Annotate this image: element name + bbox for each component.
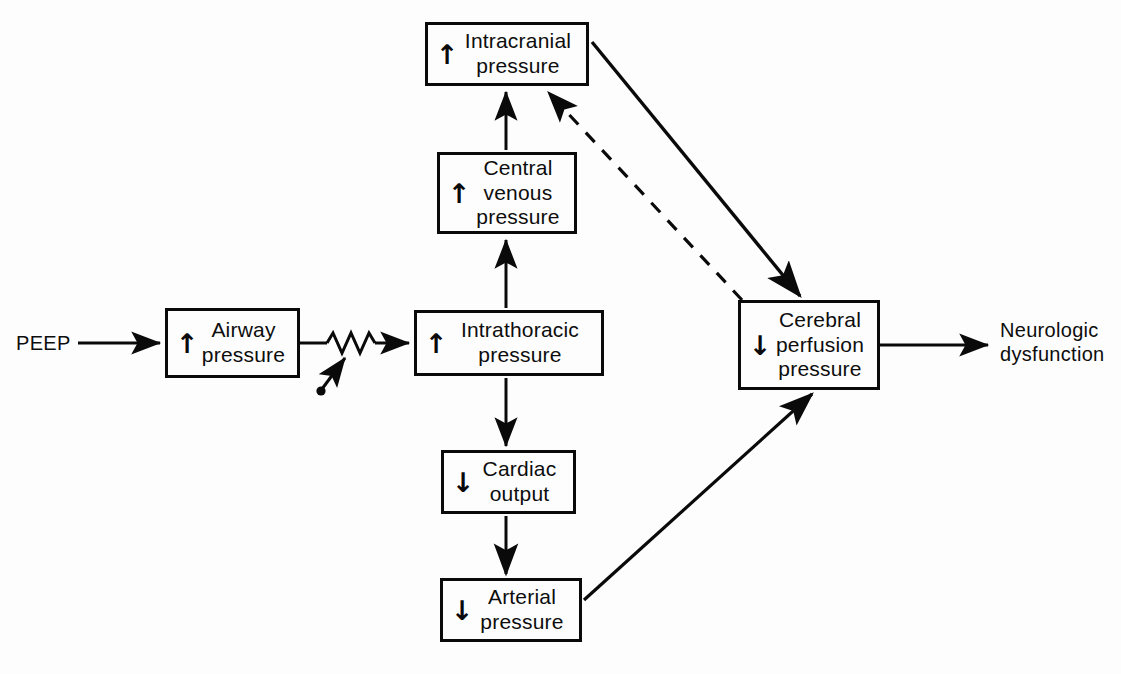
resistor-zigzag: [327, 333, 375, 353]
resistor-wiper-dot: [316, 386, 325, 395]
node-label: Intracranial pressure: [460, 29, 586, 79]
node-intracranial-pressure[interactable]: ↑ Intracranial pressure: [425, 22, 589, 86]
node-label: Airway pressure: [200, 318, 297, 368]
resistor-wiper-arrow: [322, 358, 345, 389]
node-label: Central venous pressure: [472, 156, 574, 230]
node-intrathoracic-pressure[interactable]: ↑ Intrathoracic pressure: [414, 310, 604, 376]
connector-airway-to-intrathoracic: [300, 333, 409, 396]
node-cardiac-output[interactable]: ↓ Cardiac output: [441, 450, 576, 514]
down-arrow-icon: ↓: [449, 597, 475, 624]
diagram-canvas: ↑ Intracranial pressure ↑ Central venous…: [0, 0, 1121, 674]
up-arrow-icon: ↑: [446, 180, 472, 207]
connector-arterial-to-cerebral-perfusion: [584, 394, 812, 600]
down-arrow-icon: ↓: [450, 469, 476, 496]
node-arterial-pressure[interactable]: ↓ Arterial pressure: [440, 578, 582, 642]
label-peep: PEEP: [16, 331, 71, 355]
node-central-venous-pressure[interactable]: ↑ Central venous pressure: [437, 152, 577, 234]
node-label: Cardiac output: [476, 457, 573, 507]
connector-intracranial-to-cerebral-perfusion: [592, 42, 800, 296]
up-arrow-icon: ↑: [423, 330, 449, 357]
up-arrow-icon: ↑: [434, 41, 460, 68]
node-cerebral-perfusion-pressure[interactable]: ↓ Cerebral perfusion pressure: [738, 300, 880, 390]
up-arrow-icon: ↑: [174, 330, 200, 357]
node-airway-pressure[interactable]: ↑ Airway pressure: [165, 308, 300, 378]
node-label: Arterial pressure: [475, 585, 579, 635]
connector-cerebral-perfusion-to-intracranial: [548, 92, 742, 300]
node-label: Intrathoracic pressure: [449, 318, 601, 368]
label-neurologic-dysfunction: Neurologic dysfunction: [1000, 318, 1104, 366]
node-label: Cerebral perfusion pressure: [773, 308, 877, 382]
down-arrow-icon: ↓: [747, 332, 773, 359]
